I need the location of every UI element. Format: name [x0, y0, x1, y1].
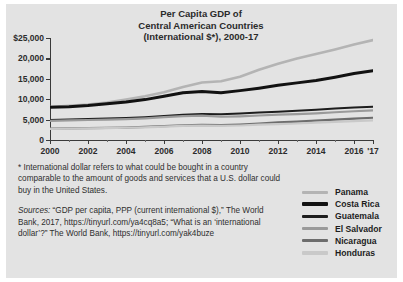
- legend-swatch: [302, 239, 328, 242]
- chart-figure: Per Capita GDP of Central American Count…: [6, 4, 397, 278]
- legend-item-costa-rica: Costa Rica: [302, 198, 398, 210]
- x-tick-label: 2002: [79, 146, 98, 156]
- y-tick-label: 0: [39, 135, 44, 145]
- x-tick-mark: [88, 140, 89, 144]
- legend-label: Honduras: [335, 248, 375, 258]
- legend-swatch: [302, 251, 328, 254]
- legend-label: Costa Rica: [335, 199, 379, 209]
- legend-swatch: [302, 227, 328, 230]
- x-tick-label: 2006: [155, 146, 174, 156]
- x-tick-minor: [183, 140, 184, 142]
- legend-item-el-salvador: El Salvador: [302, 223, 398, 235]
- x-tick-minor: [259, 140, 260, 142]
- x-tick-mark: [240, 140, 241, 144]
- x-tick-mark: [164, 140, 165, 144]
- series-line-costa-rica: [50, 71, 373, 108]
- chart-legend: PanamaCosta RicaGuatemalaEl SalvadorNica…: [302, 186, 398, 259]
- x-tick-mark: [50, 140, 51, 144]
- legend-item-nicaragua: Nicaragua: [302, 235, 398, 247]
- x-tick-label: 2010: [231, 146, 250, 156]
- x-tick-label: 2008: [193, 146, 212, 156]
- x-tick-mark: [354, 140, 355, 144]
- y-tick-label: 15,000: [18, 74, 44, 84]
- x-tick-mark: [202, 140, 203, 144]
- series-line-panama: [50, 40, 373, 107]
- x-tick-minor: [297, 140, 298, 142]
- sources-label: Sources:: [18, 206, 50, 215]
- legend-label: El Salvador: [335, 224, 382, 234]
- x-tick-minor: [221, 140, 222, 142]
- y-tick-label: $25,000: [13, 33, 44, 43]
- legend-label: Nicaragua: [335, 236, 377, 246]
- sources-note: Sources: “GDP per capita, PPP (current i…: [18, 205, 286, 239]
- y-tick-label: 10,000: [18, 94, 44, 104]
- x-tick-label: 2016: [345, 146, 364, 156]
- legend-item-honduras: Honduras: [302, 247, 398, 259]
- legend-label: Panama: [335, 187, 368, 197]
- x-axis: [50, 140, 373, 141]
- x-tick-mark: [316, 140, 317, 144]
- sources-text: “GDP per capita, PPP (current internatio…: [18, 206, 264, 238]
- y-tick-label: 5,000: [23, 115, 44, 125]
- x-tick-mark: [278, 140, 279, 144]
- x-tick-mark: [373, 140, 374, 144]
- legend-swatch: [302, 191, 328, 194]
- x-tick-minor: [145, 140, 146, 142]
- legend-item-panama: Panama: [302, 186, 398, 198]
- y-tick-label: 20,000: [18, 53, 44, 63]
- x-tick-label: 2000: [41, 146, 60, 156]
- x-tick-mark: [126, 140, 127, 144]
- legend-label: Guatemala: [335, 211, 379, 221]
- plot-area: 05,00010,00015,00020,000$25,000 20002002…: [50, 38, 373, 140]
- x-tick-minor: [69, 140, 70, 142]
- legend-swatch: [302, 215, 328, 218]
- chart-title-line-2: Central American Countries: [66, 20, 336, 32]
- series-lines: [50, 38, 373, 140]
- legend-swatch: [302, 202, 328, 206]
- x-tick-label: 2012: [269, 146, 288, 156]
- footnote-international-dollar: * International dollar refers to what co…: [18, 162, 286, 196]
- chart-title-line-1: Per Capita GDP of: [66, 8, 336, 20]
- x-tick-minor: [107, 140, 108, 142]
- x-tick-label: 2014: [307, 146, 326, 156]
- chart-notes: * International dollar refers to what co…: [18, 162, 286, 239]
- legend-item-guatemala: Guatemala: [302, 210, 398, 222]
- x-tick-minor: [335, 140, 336, 142]
- x-tick-label: 2004: [117, 146, 136, 156]
- x-tick-label: '17: [367, 146, 378, 156]
